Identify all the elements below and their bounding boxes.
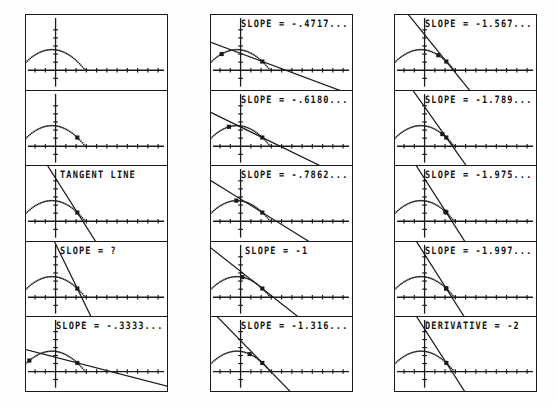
panel-readout-label: SLOPE = -1 [245,246,308,258]
calculator-panel: SLOPE = -1.316... [210,316,353,392]
calculator-panel: SLOPE = -.4717... [210,14,353,90]
calculator-panel: SLOPE = -.7862... [210,165,353,241]
panel-column-2: SLOPE = -.4717...SLOPE = -.6180...SLOPE … [210,14,353,392]
calculator-panel: SLOPE = -.6180... [210,90,353,166]
calculator-panel: SLOPE = -1.567... [394,14,537,90]
panel-readout-label: SLOPE = -.7862... [241,170,349,182]
calculator-screen-sequence: TANGENT LINESLOPE = ?SLOPE = -.3333... S… [0,0,557,406]
secant-line [211,179,352,241]
curve-point-marker [260,211,264,215]
curve-point-marker [260,135,264,139]
panel-readout-label: DERIVATIVE = -2 [425,321,520,333]
panel-readout-label: SLOPE = -1.789... [425,95,533,107]
curve-point-marker [227,124,231,128]
calculator-panel: SLOPE = ? [25,241,168,317]
curve-point-marker [260,59,264,63]
calculator-panel: SLOPE = -1.789... [394,90,537,166]
panel-readout-label: SLOPE = -1.997... [425,246,533,258]
calculator-panel: DERIVATIVE = -2 [394,316,537,392]
curve-point-marker [234,199,238,203]
curve-point-marker [75,286,79,290]
calculator-panel: SLOPE = -1.997... [394,241,537,317]
calculator-panel: SLOPE = -1 [210,241,353,317]
curve-point-marker [260,286,264,290]
curve-point-marker [75,135,79,139]
calculator-panel: SLOPE = -.3333... [25,316,168,392]
panel-readout-label: SLOPE = -1.316... [241,321,349,333]
panel-column-3: SLOPE = -1.567...SLOPE = -1.789...SLOPE … [394,14,537,392]
calculator-panel: TANGENT LINE [25,165,168,241]
curve-point-marker [444,59,448,63]
curve-point-marker [75,361,79,365]
calculator-panel [25,14,168,90]
curve-point-marker [240,275,244,279]
curve-point-marker [436,53,440,57]
curve-point-marker [444,211,448,215]
curve-point-marker [440,132,444,136]
calculator-panel [25,90,168,166]
axes [28,94,164,163]
panel-readout-label: SLOPE = -.6180... [241,95,349,107]
curve-point-marker [27,359,31,363]
curve-point-marker [220,52,224,56]
panel-column-1: TANGENT LINESLOPE = ?SLOPE = -.3333... [25,14,168,392]
axes [28,18,164,87]
panel-readout-label: SLOPE = -.3333... [56,321,164,333]
curve-point-marker [75,211,79,215]
secant-line [211,111,352,166]
secant-line [26,349,167,387]
calculator-panel: SLOPE = -1.975... [394,165,537,241]
panel-readout-label: TANGENT LINE [60,170,136,182]
curve-point-marker [248,352,252,356]
panel-readout-label: SLOPE = -1.975... [425,170,533,182]
panel-readout-label: SLOPE = -.4717... [241,19,349,31]
curve-point-marker [260,361,264,365]
secant-line [211,41,352,89]
curve-point-marker [444,361,448,365]
curve-point-marker [444,286,448,290]
panel-readout-label: SLOPE = -1.567... [425,19,533,31]
panel-readout-label: SLOPE = ? [60,246,117,258]
curve-point-marker [444,135,448,139]
